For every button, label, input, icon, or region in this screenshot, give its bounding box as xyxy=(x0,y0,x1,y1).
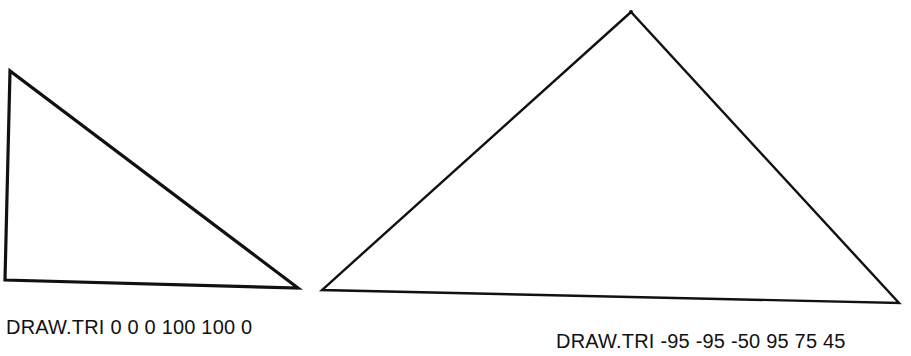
caption-draw-tri-1: DRAW.TRI 0 0 0 100 100 0 xyxy=(6,316,252,339)
triangle-large xyxy=(322,12,899,303)
apex-dot-icon xyxy=(629,10,633,14)
drawing-canvas xyxy=(0,0,911,356)
caption-draw-tri-2: DRAW.TRI -95 -95 -50 95 75 45 xyxy=(556,330,846,353)
triangle-right-angled xyxy=(5,71,298,288)
